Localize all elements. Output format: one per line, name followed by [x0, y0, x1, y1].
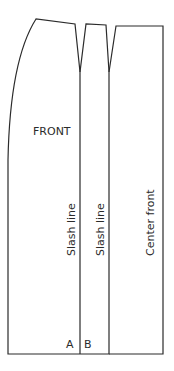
front-label: FRONT: [33, 125, 71, 138]
middle-panel-outline: [80, 24, 109, 354]
slash-line-label-1: Slash line: [65, 203, 78, 256]
center-front-label: Center front: [144, 189, 157, 256]
side-panel-outline: [8, 19, 80, 354]
point-a-label: A: [66, 338, 74, 351]
point-b-label: B: [84, 338, 92, 351]
slash-line-label-2: Slash line: [94, 203, 107, 256]
pattern-diagram: FRONT Slash line Slash line Center front…: [0, 0, 174, 371]
